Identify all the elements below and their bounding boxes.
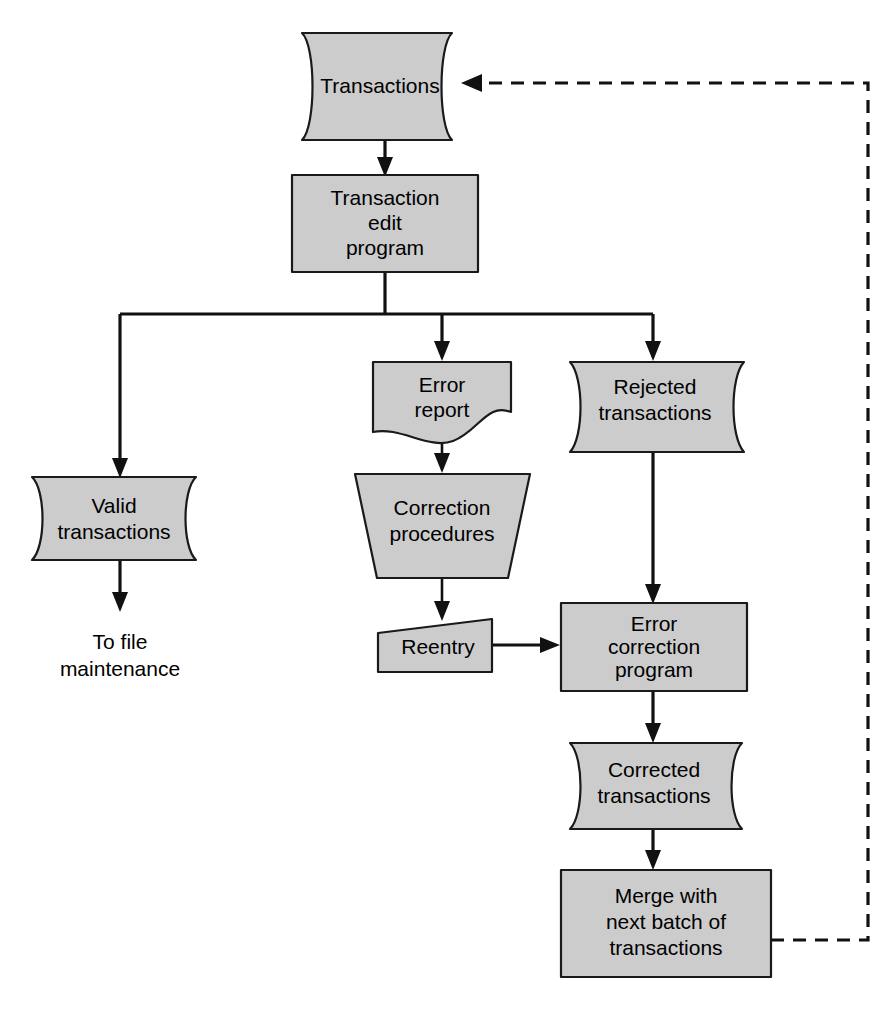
edge-edit-program-to-error-report [434,314,450,361]
node-rejected-transactions[interactable]: Rejected transactions [570,362,744,452]
edge-edit-program-to-rejected-transactions [645,314,661,361]
node-error-correction-program[interactable]: Error correction program [561,603,747,691]
node-transactions[interactable]: Transactions [302,33,452,140]
node-merge-with-next-batch[interactable]: Merge with next batch of transactions [561,870,771,977]
label-to-file-maintenance: To file maintenance [60,630,180,680]
flowchart-canvas: Transactions Transaction edit program Va… [0,0,893,1023]
edge-reentry-to-error-correction-program [493,637,560,653]
label-to-file-maintenance-line1: To file [93,630,148,653]
edge-valid-transactions-to-file-maintenance [112,560,128,612]
edge-edit-program-branch-bus [120,272,653,314]
flowchart-svg: Transactions Transaction edit program Va… [0,0,893,1023]
node-correction-procedures[interactable]: Correction procedures [355,474,530,578]
edge-correction-procedures-to-reentry [434,578,450,621]
node-transaction-edit-program[interactable]: Transaction edit program [292,175,478,272]
edge-edit-program-to-valid-transactions [112,314,128,478]
node-reentry[interactable]: Reentry [378,619,492,672]
node-error-report[interactable]: Error report [373,362,511,443]
edge-corrected-transactions-to-merge [645,829,661,870]
label-to-file-maintenance-line2: maintenance [60,657,180,680]
node-valid-transactions[interactable]: Valid transactions [32,477,196,560]
node-corrected-transactions[interactable]: Corrected transactions [570,743,742,829]
edge-error-correction-program-to-corrected-transactions [645,691,661,743]
edge-rejected-transactions-to-error-correction-program [645,452,661,604]
edge-transactions-to-edit-program [377,140,393,177]
